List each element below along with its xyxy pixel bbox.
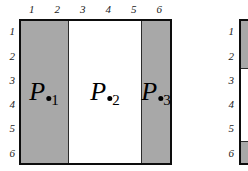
region-p3-label: P3 <box>141 79 170 105</box>
region-p1-letter: P <box>29 77 45 106</box>
partial-row-label-axis: 1 2 3 4 5 6 <box>186 19 236 165</box>
column-label-3: 3 <box>76 2 90 16</box>
region-p3-letter: P <box>141 77 157 106</box>
region-p1-right-edge <box>68 21 69 163</box>
region-p1-label: P1 <box>29 79 58 105</box>
region-p2-letter: P <box>90 77 106 106</box>
row-label-4: 4 <box>0 98 15 111</box>
row-label-2: 2 <box>0 50 15 63</box>
adjacent-figure-clipped: 1 2 3 4 5 6 <box>186 0 248 171</box>
partial-row-label-6: 6 <box>186 147 234 160</box>
partial-segment-top-shaded <box>241 21 248 68</box>
partial-row-label-1: 1 <box>186 25 234 38</box>
row-label-6: 6 <box>0 147 15 160</box>
row-label-1: 1 <box>0 25 15 38</box>
region-p2-subscript: 2 <box>112 92 120 108</box>
column-label-2: 2 <box>50 2 64 16</box>
column-label-axis: 1 2 3 4 5 6 <box>19 2 172 18</box>
row-label-axis: 1 2 3 4 5 6 <box>0 19 17 165</box>
partial-row-label-5: 5 <box>186 122 234 135</box>
partial-segment-top-edge <box>241 68 248 69</box>
partial-row-label-2: 2 <box>186 50 234 63</box>
column-label-6: 6 <box>152 2 166 16</box>
partial-segment-bottom-edge <box>241 141 248 142</box>
row-label-3: 3 <box>0 74 15 87</box>
row-label-5: 5 <box>0 122 15 135</box>
column-label-4: 4 <box>101 2 115 16</box>
partial-grid-frame <box>239 19 248 165</box>
column-label-1: 1 <box>25 2 39 16</box>
partial-segment-bottom-shaded <box>241 142 248 163</box>
region-p1-subscript: 1 <box>51 92 59 108</box>
partial-row-label-4: 4 <box>186 98 234 111</box>
column-label-5: 5 <box>127 2 141 16</box>
partial-row-label-3: 3 <box>186 74 234 87</box>
region-p2-label: P2 <box>90 79 119 105</box>
region-p3-subscript: 3 <box>163 92 171 108</box>
